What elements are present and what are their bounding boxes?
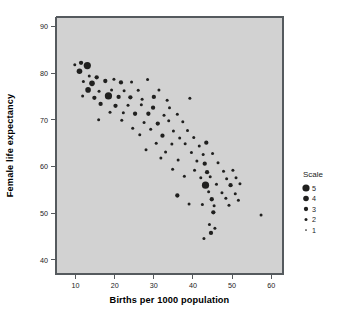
data-point [123,89,126,92]
chart-canvas: 102030405060 405060708090 Births per 100… [0,0,343,312]
data-point [171,168,174,171]
data-point [167,119,170,122]
data-point [110,88,113,91]
data-point [231,169,234,172]
data-point [89,81,95,87]
data-point [155,142,158,145]
data-point [105,92,112,99]
legend-title: Scale [303,170,324,179]
data-point [156,121,160,125]
data-point [146,78,149,81]
data-point [195,159,198,162]
data-point [186,129,189,132]
data-point [176,113,179,116]
data-point [184,142,187,145]
x-axis-title: Births per 1000 population [110,295,230,305]
data-point [217,161,220,164]
plot-area-background [56,17,283,274]
data-point [143,121,146,124]
legend-marker [305,229,307,231]
data-point [210,197,214,201]
data-point [215,183,218,186]
data-point [199,176,202,179]
legend-label: 1 [312,226,316,235]
legend-marker [304,207,308,211]
y-tick-label: 40 [40,256,48,265]
data-point [79,61,83,65]
scatter-plot-figure: 102030405060 405060708090 Births per 100… [0,0,343,312]
data-point [145,148,148,151]
y-axis-title: Female life expectancy [5,93,15,197]
data-point [234,192,237,195]
data-point [225,177,228,180]
data-point [227,204,230,207]
data-point [202,237,205,240]
legend-label: 3 [312,205,316,214]
data-point [113,104,117,108]
data-point [122,111,125,114]
data-point [120,119,123,122]
data-point [163,114,166,117]
legend-label: 4 [312,194,316,203]
data-point [77,68,83,74]
data-point [92,96,96,100]
data-point [168,106,171,109]
data-point [224,197,227,200]
data-point [140,103,143,106]
legend-marker [305,218,308,221]
y-tick-label: 50 [40,209,48,218]
data-point [203,162,207,166]
data-point [188,97,191,100]
data-point [228,183,232,187]
data-point [130,80,133,83]
data-point [95,75,99,79]
data-point [207,190,210,193]
x-tick-label: 60 [267,281,275,290]
y-tick-label: 90 [40,22,48,31]
data-point [160,134,164,138]
data-point [178,137,181,140]
data-point [157,88,160,91]
data-point [166,99,169,102]
data-point [213,227,216,230]
data-point [138,133,141,136]
data-point [235,176,238,179]
data-point [222,170,225,173]
data-point [260,214,263,217]
data-point [73,63,76,66]
data-point [202,182,209,189]
data-point [211,152,214,155]
data-point [172,130,175,133]
data-point [164,151,167,154]
data-point [82,80,85,83]
data-point [237,199,240,202]
data-point [213,204,216,207]
data-point [181,120,184,123]
data-point [188,202,191,205]
x-tick-label: 20 [111,281,119,290]
data-point [97,118,100,121]
data-point [211,210,215,214]
data-point [103,79,107,83]
x-tick-label: 40 [189,281,197,290]
data-point [146,112,150,116]
x-tick-label: 10 [72,281,80,290]
data-point [141,98,144,101]
data-point [183,175,186,178]
data-point [177,158,180,161]
legend-marker [303,196,309,202]
data-point [127,104,130,107]
data-point [170,143,173,146]
data-point [201,203,204,206]
data-point [208,223,211,226]
data-point [137,89,140,92]
y-tick-label: 70 [40,116,48,125]
x-tick-label: 30 [150,281,158,290]
data-point [193,169,196,172]
data-point [220,191,223,194]
data-point [159,157,162,160]
data-point [128,95,132,99]
data-point [85,87,91,93]
y-tick-label: 60 [40,162,48,171]
data-point [175,193,179,197]
